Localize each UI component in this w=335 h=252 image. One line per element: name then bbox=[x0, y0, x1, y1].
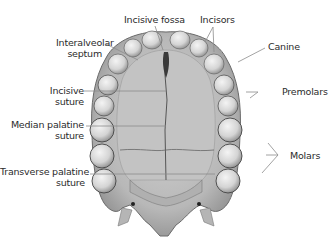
label-incisive-fossa: Incisive fossa bbox=[124, 14, 185, 25]
label-median-palatine-suture-1: Median palatine bbox=[0, 119, 84, 130]
label-incisors: Incisors bbox=[200, 14, 235, 25]
label-molars: Molars bbox=[290, 150, 320, 161]
label-incisive-suture-1: Incisive bbox=[40, 85, 84, 96]
label-interalveolar-septum-1: Interalveolar bbox=[56, 37, 106, 48]
label-transverse-palatine-suture-1: Transverse palatine bbox=[0, 166, 89, 177]
label-canine: Canine bbox=[268, 41, 300, 52]
label-transverse-palatine-suture-2: suture bbox=[0, 177, 85, 188]
palate-diagram: Incisive fossa Incisors Interalveolar se… bbox=[0, 0, 335, 252]
label-premolars: Premolars bbox=[282, 86, 328, 97]
label-interalveolar-septum-2: septum bbox=[56, 48, 102, 59]
label-median-palatine-suture-2: suture bbox=[0, 130, 84, 141]
label-incisive-suture-2: suture bbox=[40, 96, 84, 107]
